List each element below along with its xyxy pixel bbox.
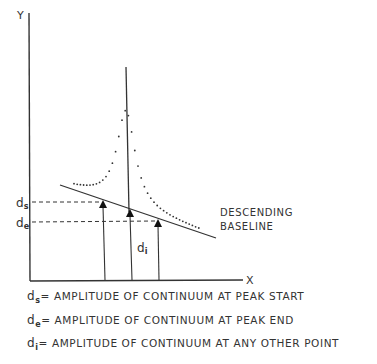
peak-dot	[137, 165, 139, 167]
de-dashed-line	[32, 221, 156, 222]
peak-dot	[127, 115, 129, 117]
ds-marker-label: ds	[16, 196, 29, 211]
peak-dot	[182, 220, 184, 222]
peak-dot	[115, 151, 117, 153]
peak-dot	[153, 201, 155, 203]
peak-dot	[108, 170, 110, 172]
descending-baseline	[60, 185, 216, 238]
peak-center-line	[126, 67, 129, 212]
peak-dot	[96, 183, 98, 185]
ds-arrow	[99, 200, 107, 280]
definition-symbol: d	[27, 289, 35, 303]
y-axis	[29, 13, 30, 281]
peak-dot	[83, 184, 85, 186]
peak-dot	[198, 227, 200, 229]
peak-dot	[185, 222, 187, 224]
diagram-canvas: Y X ds de di DESCENDING BASELINE	[0, 0, 377, 364]
peak-dot	[192, 225, 194, 227]
peak-dot	[105, 176, 107, 178]
peak-dot	[160, 207, 162, 209]
peak-dot	[80, 184, 82, 186]
di-marker-label: di	[137, 241, 148, 256]
definition-symbol: d	[27, 313, 35, 327]
peak-dot	[166, 212, 168, 214]
x-axis	[30, 280, 243, 281]
definition-text: = AMPLITUDE OF CONTINUUM AT ANY OTHER PO…	[39, 337, 340, 349]
peak-dot	[156, 205, 158, 207]
peak-dot	[89, 184, 91, 186]
definition-text: = AMPLITUDE OF CONTINUUM AT PEAK START	[41, 290, 305, 302]
peak-dot	[99, 182, 101, 184]
peak-dot	[76, 183, 78, 185]
peak-dot	[134, 150, 136, 152]
peak-dot	[121, 119, 123, 121]
peak-dot	[73, 183, 75, 185]
peak-dot	[118, 136, 120, 138]
peak-dot	[188, 223, 190, 225]
peak-dot	[92, 184, 94, 186]
de-marker-label: de	[16, 216, 30, 231]
peak-dot	[172, 216, 174, 218]
definition-text: = AMPLITUDE OF CONTINUUM AT PEAK END	[41, 314, 294, 326]
y-axis-label: Y	[16, 9, 24, 22]
baseline-label-line2: BASELINE	[220, 221, 274, 232]
de-arrow	[154, 219, 162, 280]
peak-dot	[144, 186, 146, 188]
peak-dot	[176, 217, 178, 219]
peak-dot	[124, 110, 126, 112]
peak-dot	[86, 184, 88, 186]
peak-dot	[140, 177, 142, 179]
peak-dot	[102, 179, 104, 181]
peak-dot	[147, 192, 149, 194]
peak-dot	[150, 197, 152, 199]
definition-de: de= AMPLITUDE OF CONTINUUM AT PEAK END	[27, 313, 294, 329]
peak-dot	[195, 226, 197, 228]
peak-dot	[163, 210, 165, 212]
definition-di: di= AMPLITUDE OF CONTINUUM AT ANY OTHER …	[27, 336, 339, 352]
peak-dot	[112, 162, 114, 164]
x-axis-label: X	[246, 274, 254, 287]
definition-ds: ds= AMPLITUDE OF CONTINUUM AT PEAK START	[27, 289, 304, 305]
baseline-label-line1: DESCENDING	[220, 207, 293, 218]
peak-dot	[131, 131, 133, 133]
di-arrow	[126, 209, 134, 280]
definition-symbol: d	[27, 336, 35, 350]
peak-dot	[169, 214, 171, 216]
peak-dot	[179, 219, 181, 221]
